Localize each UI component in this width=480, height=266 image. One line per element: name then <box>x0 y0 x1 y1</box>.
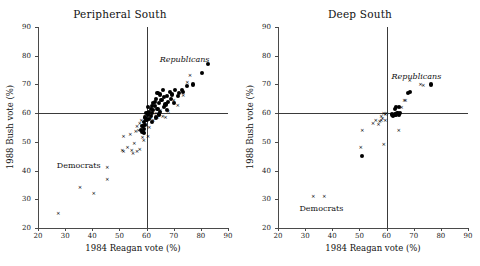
data-point-democrats <box>78 185 83 190</box>
y-tick-mark <box>275 84 278 85</box>
data-point-republicans <box>155 91 159 95</box>
x-axis-line <box>278 228 468 229</box>
data-point-republicans <box>390 112 394 116</box>
x-tick-label: 20 <box>274 232 283 240</box>
y-axis-line <box>278 27 279 228</box>
y-tick-mark <box>35 171 38 172</box>
x-tick-mark <box>92 228 93 231</box>
data-point-democrats <box>175 103 180 108</box>
x-tick-label: 70 <box>169 232 178 240</box>
x-tick-label: 40 <box>88 232 97 240</box>
data-point-democrats <box>155 115 160 120</box>
y-tick-label: 20 <box>262 224 271 232</box>
y-tick-label: 80 <box>262 52 271 60</box>
panel-deep-south: Deep South 2030405060708090 203040506070… <box>240 0 480 266</box>
y-tick-label: 80 <box>22 52 31 60</box>
data-point-democrats <box>185 80 190 85</box>
data-point-republicans <box>176 94 180 98</box>
data-point-republicans <box>200 71 204 75</box>
data-point-democrats <box>396 128 401 133</box>
y-tick-label: 40 <box>262 167 271 175</box>
data-point-democrats <box>383 118 388 123</box>
data-point-democrats <box>181 93 186 98</box>
data-point-democrats <box>105 177 110 182</box>
x-tick-label: 80 <box>436 232 445 240</box>
data-point-democrats <box>384 111 389 116</box>
y-axis-line <box>38 27 39 228</box>
x-tick-mark <box>38 228 39 231</box>
x-tick-mark <box>359 228 360 231</box>
annotation-republicans: Republicans <box>160 54 210 63</box>
data-point-democrats <box>360 128 365 133</box>
y-tick-label: 60 <box>22 109 31 117</box>
y-tick-mark <box>35 84 38 85</box>
data-point-republicans <box>157 101 161 105</box>
data-point-democrats <box>121 149 126 154</box>
data-point-democrats <box>105 165 110 170</box>
data-point-republicans <box>191 82 195 86</box>
y-tick-label: 30 <box>22 195 31 203</box>
y-tick-mark <box>35 228 38 229</box>
data-point-democrats <box>358 145 363 150</box>
x-axis-line <box>38 228 228 229</box>
data-point-democrats <box>128 132 133 137</box>
y-tick-mark <box>275 228 278 229</box>
y-tick-mark <box>275 199 278 200</box>
y-tick-mark <box>275 113 278 114</box>
data-point-republicans <box>406 91 410 95</box>
panel-title: Deep South <box>240 8 480 20</box>
x-tick-label: 20 <box>34 232 43 240</box>
x-tick-mark <box>147 228 148 231</box>
x-tick-label: 50 <box>355 232 364 240</box>
x-tick-mark <box>387 228 388 231</box>
y-tick-label: 70 <box>22 80 31 88</box>
x-tick-mark <box>441 228 442 231</box>
annotation-republicans: Republicans <box>392 71 442 80</box>
data-point-democrats <box>56 211 61 216</box>
data-point-republicans <box>398 111 402 115</box>
x-tick-label: 90 <box>464 232 473 240</box>
x-tick-label: 80 <box>196 232 205 240</box>
data-point-democrats <box>137 147 142 152</box>
y-tick-mark <box>35 56 38 57</box>
data-point-republicans <box>360 154 364 158</box>
x-tick-label: 70 <box>409 232 418 240</box>
y-tick-mark <box>275 27 278 28</box>
x-tick-mark <box>305 228 306 231</box>
reference-line-horizontal <box>38 113 228 114</box>
y-tick-label: 40 <box>22 167 31 175</box>
data-point-democrats <box>403 98 408 103</box>
x-tick-mark <box>332 228 333 231</box>
x-tick-label: 40 <box>328 232 337 240</box>
y-tick-label: 90 <box>22 23 31 31</box>
y-tick-label: 60 <box>262 109 271 117</box>
data-point-democrats <box>163 115 168 120</box>
data-point-democrats <box>132 141 137 146</box>
data-point-democrats <box>141 129 146 134</box>
y-axis-title: 1988 Bush vote (%) <box>5 52 15 202</box>
y-tick-label: 90 <box>262 23 271 31</box>
plot-area: 2030405060708090 2030405060708090 Republ… <box>38 27 228 228</box>
y-tick-mark <box>35 142 38 143</box>
x-tick-label: 60 <box>382 232 391 240</box>
figure-scatter-pair: Peripheral South 2030405060708090 203040… <box>0 0 480 266</box>
panel-title: Peripheral South <box>0 8 240 20</box>
y-tick-label: 50 <box>22 138 31 146</box>
y-tick-mark <box>275 56 278 57</box>
annotation-democrats: Democrats <box>299 203 343 212</box>
x-tick-mark <box>65 228 66 231</box>
y-tick-mark <box>35 113 38 114</box>
data-point-democrats <box>421 83 426 88</box>
x-tick-mark <box>228 228 229 231</box>
data-point-democrats <box>188 73 193 78</box>
data-point-republicans <box>429 82 433 86</box>
data-point-democrats <box>381 142 386 147</box>
reference-line-horizontal <box>278 113 468 114</box>
data-point-democrats <box>147 125 152 130</box>
x-tick-mark <box>468 228 469 231</box>
data-point-democrats <box>141 138 146 143</box>
y-tick-mark <box>35 199 38 200</box>
x-axis-title: 1984 Reagan vote (%) <box>278 243 468 253</box>
y-tick-label: 70 <box>262 80 271 88</box>
x-axis-title: 1984 Reagan vote (%) <box>38 243 228 253</box>
